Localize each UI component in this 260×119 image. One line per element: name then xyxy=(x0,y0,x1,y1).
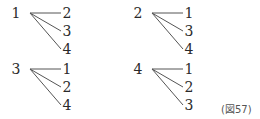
leaf-node: 2 xyxy=(63,6,72,20)
tree-1: 1234 xyxy=(0,0,130,55)
leaf-node: 4 xyxy=(63,42,72,56)
leaf-node: 2 xyxy=(63,80,72,94)
leaf-node: 2 xyxy=(185,80,194,94)
leaf-node: 1 xyxy=(185,6,194,20)
leaf-node: 3 xyxy=(63,24,72,38)
root-node: 2 xyxy=(134,6,143,20)
leaf-node: 4 xyxy=(63,98,72,112)
leaf-node: 3 xyxy=(185,24,194,38)
leaf-node: 1 xyxy=(185,62,194,76)
tree-3: 3124 xyxy=(0,56,130,111)
figure-caption: (図57) xyxy=(221,101,252,116)
root-node: 3 xyxy=(12,62,21,76)
root-node: 1 xyxy=(12,6,21,20)
tree-2: 2134 xyxy=(122,0,252,55)
leaf-node: 3 xyxy=(185,98,194,112)
leaf-node: 4 xyxy=(185,42,194,56)
root-node: 4 xyxy=(134,62,143,76)
leaf-node: 1 xyxy=(63,62,72,76)
